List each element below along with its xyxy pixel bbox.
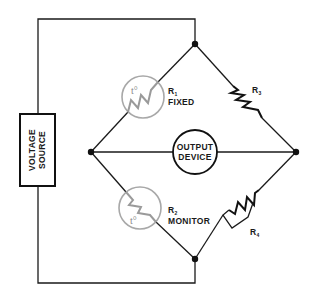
r1-desc: FIXED [168, 97, 195, 107]
r3-label: R3 [252, 85, 262, 96]
bottom-supply-wire [38, 186, 195, 283]
r4-bypass-wiper [223, 203, 253, 228]
voltage-source-label-line1: VOLTAGE [27, 129, 37, 171]
node-bottom [192, 256, 198, 262]
wire-r3-right [262, 118, 296, 152]
wire-left-r2 [91, 152, 126, 192]
voltage-source-label-line2: SOURCE [37, 131, 47, 169]
wire-r1-left [91, 112, 128, 152]
voltage-source: VOLTAGE SOURCE [20, 114, 55, 186]
r4-label: R4 [250, 227, 260, 238]
wire-r2-bottom [156, 222, 195, 259]
wire-top-r1 [158, 44, 195, 82]
r1-temp-symbol: t° [131, 85, 138, 96]
wire-right-r4 [259, 152, 296, 190]
wheatstone-bridge-diagram: VOLTAGE SOURCE t° R1 FIXED R3 OUTPUT DEV… [0, 0, 316, 302]
wire-top-r3 [195, 44, 233, 86]
r2-temp-symbol: t° [130, 215, 137, 226]
r2-label: R2 [168, 205, 178, 216]
r4-resistor-icon [229, 190, 259, 214]
output-device-label-line1: OUTPUT [177, 142, 214, 152]
node-left [88, 149, 94, 155]
output-device-label-line2: DEVICE [178, 152, 211, 162]
node-right [293, 149, 299, 155]
node-top [192, 41, 198, 47]
output-branch: OUTPUT DEVICE [91, 130, 296, 174]
r1-label: R1 [168, 86, 178, 97]
supply-wiring [38, 19, 195, 283]
r2-desc: MONITOR [168, 216, 210, 226]
